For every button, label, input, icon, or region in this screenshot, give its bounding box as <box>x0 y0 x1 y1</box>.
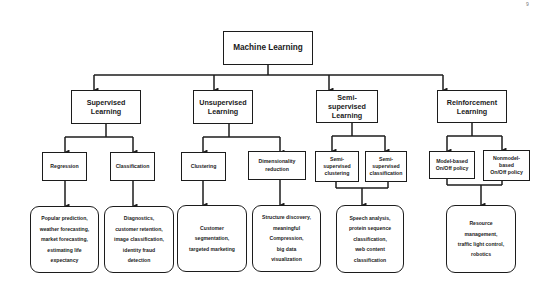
node-label-line: Supervised <box>87 98 126 107</box>
node-label-line: Regression <box>50 163 78 170</box>
application-line: expectancy <box>40 255 90 265</box>
application-line: protein sequence <box>349 223 391 233</box>
application-line: traffic light control, <box>458 239 504 249</box>
node-label-line: Semi-supervised <box>319 93 375 111</box>
application-line: classification, <box>349 234 391 244</box>
application-line: segmentation, <box>189 233 235 243</box>
node-label-line: Semi- <box>323 156 350 163</box>
node-regression: Regression <box>42 152 87 181</box>
applications-reinforcement: Resource management, traffic light contr… <box>446 205 516 273</box>
application-line: robotics <box>458 249 504 259</box>
node-classification: Classification <box>110 152 155 181</box>
node-label-line: Learning <box>447 107 497 116</box>
application-line: targeted marketing <box>189 244 235 254</box>
application-line: Customer <box>189 223 235 233</box>
application-line: identity fraud <box>114 245 164 255</box>
application-line: market forecasting, <box>40 234 90 244</box>
application-line: Popular prediction, <box>40 213 90 223</box>
application-line: image classification, <box>114 234 164 244</box>
node-semi-supervised-classification: Semi- supervised classification <box>365 151 407 182</box>
node-nonmodel-based-policy: Nonmodel- based On/Off policy <box>483 150 530 181</box>
node-label-line: Semi- <box>370 156 403 163</box>
node-label-line: Unsupervised <box>199 98 247 107</box>
applications-dimensionality-reduction: Structure discovery, meaningful Compress… <box>252 205 321 272</box>
applications-regression: Popular prediction, weather forecasting,… <box>30 206 99 273</box>
ml-taxonomy-diagram: 9 <box>0 0 557 293</box>
node-label-line: supervised <box>370 163 403 170</box>
node-unsupervised-learning: Unsupervised Learning <box>193 90 253 124</box>
root-label: Machine Learning <box>233 43 303 53</box>
application-line: Structure discovery, <box>262 212 311 222</box>
node-label-line: based <box>490 162 523 169</box>
application-line: meaningful <box>262 223 311 233</box>
application-line: weather forecasting, <box>40 224 90 234</box>
application-line: customer retention, <box>114 224 164 234</box>
node-reinforcement-learning: Reinforcement Learning <box>437 90 507 123</box>
application-line: classification <box>349 255 391 265</box>
node-label-line: Learning <box>87 107 126 116</box>
application-line: detection <box>114 255 164 265</box>
applications-classification: Diagnostics, customer retention, image c… <box>104 206 174 273</box>
application-line: estimating life <box>40 245 90 255</box>
application-line: Compression, <box>262 233 311 243</box>
node-dimensionality-reduction: Dimensionality reduction <box>248 151 306 180</box>
node-label-line: Learning <box>319 111 375 120</box>
root-node-machine-learning: Machine Learning <box>223 31 313 65</box>
node-label-line: Classification <box>116 163 150 170</box>
node-label-line: supervised <box>323 163 350 170</box>
application-line: Resource <box>458 218 504 228</box>
application-line: Diagnostics, <box>114 213 164 223</box>
application-line: web content <box>349 244 391 254</box>
node-clustering: Clustering <box>181 152 226 181</box>
node-label-line: clustering <box>323 170 350 177</box>
node-label-line: Reinforcement <box>447 98 497 107</box>
node-semi-supervised-learning: Semi-supervised Learning <box>316 90 378 123</box>
node-label-line: Clustering <box>191 163 217 170</box>
node-label-line: Model-based <box>436 158 469 165</box>
node-label-line: classification <box>370 170 403 177</box>
node-label-line: Dimensionality <box>259 158 296 165</box>
application-line: Speech analysis, <box>349 213 391 223</box>
node-label-line: Learning <box>199 107 247 116</box>
applications-clustering: Customer segmentation, targeted marketin… <box>177 205 247 272</box>
node-model-based-policy: Model-based On/Off policy <box>429 151 475 179</box>
node-label-line: reduction <box>259 166 296 173</box>
node-semi-supervised-clustering: Semi- supervised clustering <box>315 151 359 182</box>
node-label-line: On/Off policy <box>436 165 469 172</box>
application-line: big data <box>262 244 311 254</box>
applications-semi-supervised: Speech analysis, protein sequence classi… <box>336 205 404 273</box>
node-supervised-learning: Supervised Learning <box>71 90 141 124</box>
node-label-line: Nonmodel- <box>490 155 523 162</box>
application-line: visualization <box>262 254 311 264</box>
node-label-line: On/Off policy <box>490 169 523 176</box>
application-line: management, <box>458 229 504 239</box>
